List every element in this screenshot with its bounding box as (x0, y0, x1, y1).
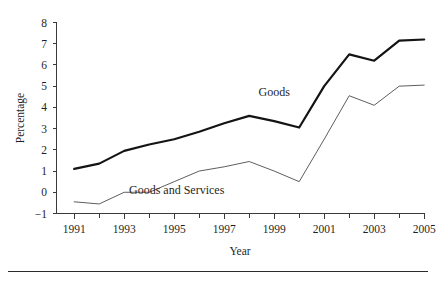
x-tick-label-1991: 1991 (63, 223, 86, 235)
x-tick-label-2001: 2001 (313, 223, 336, 235)
y-tick-label-2: 2 (41, 144, 47, 156)
y-tick-label-3: 3 (41, 123, 47, 135)
series-annotation-goods-and-services: Goods and Services (129, 183, 225, 197)
y-tick-label-8: 8 (41, 17, 47, 29)
x-tick-label-2005: 2005 (413, 223, 436, 235)
x-axis-ticks (74, 214, 424, 219)
series-annotation-goods: Goods (259, 85, 291, 99)
x-axis-title: Year (229, 245, 250, 257)
x-tick-label-1993: 1993 (113, 223, 136, 235)
x-tick-label-1995: 1995 (163, 223, 186, 235)
y-tick-label-7: 7 (41, 38, 47, 50)
y-tick-label-5: 5 (41, 80, 47, 92)
x-axis-tick-labels: 1991 1993 1995 1997 1999 2001 2003 2005 (63, 223, 436, 235)
x-tick-label-1997: 1997 (213, 223, 236, 235)
y-axis-tick-labels: 8 7 6 5 4 3 2 1 0 −1 (35, 17, 48, 220)
y-axis-ticks (53, 23, 57, 214)
x-tick-label-2003: 2003 (363, 223, 386, 235)
line-chart: 8 7 6 5 4 3 2 1 0 −1 (0, 0, 436, 282)
series-line-goods-and-services (74, 85, 424, 204)
y-tick-label-minus1: −1 (35, 208, 47, 220)
y-tick-label-6: 6 (41, 59, 47, 71)
x-tick-label-1999: 1999 (263, 223, 286, 235)
y-axis-title: Percentage (14, 93, 27, 143)
y-tick-label-1: 1 (41, 165, 47, 177)
y-tick-label-0: 0 (41, 186, 47, 198)
y-tick-label-4: 4 (41, 101, 47, 113)
figure-container: 8 7 6 5 4 3 2 1 0 −1 (0, 0, 436, 282)
